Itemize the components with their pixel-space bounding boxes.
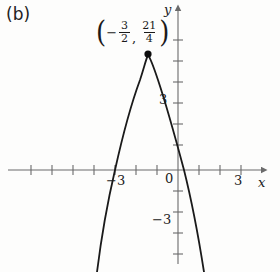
x-axis [8, 165, 262, 175]
origin-label: 0 [165, 172, 173, 185]
vertex-point [144, 50, 151, 57]
x-tick-label-neg3: −3 [106, 174, 125, 187]
y-axis-label: y [164, 3, 171, 16]
x-coordinate-fraction: 3 2 [119, 20, 130, 44]
open-paren: ( [96, 17, 106, 47]
y-numerator: 21 [140, 20, 158, 32]
minus-sign: − [106, 26, 117, 39]
x-denominator: 2 [119, 32, 130, 45]
x-tick-label-pos3: 3 [234, 174, 242, 187]
comma: , [132, 31, 136, 46]
y-tick-label-neg3: −3 [152, 213, 171, 226]
y-tick-label-pos3: 3 [159, 93, 167, 106]
parabola-curve [97, 55, 204, 272]
x-axis-label: x [258, 176, 265, 189]
x-numerator: 3 [119, 20, 130, 32]
y-denominator: 4 [144, 32, 155, 45]
y-coordinate-fraction: 21 4 [140, 20, 158, 44]
vertex-coordinate-label: ( − 3 2 , 21 4 ) [96, 18, 169, 46]
figure-panel: (b) [0, 0, 280, 272]
close-paren: ) [159, 17, 169, 47]
